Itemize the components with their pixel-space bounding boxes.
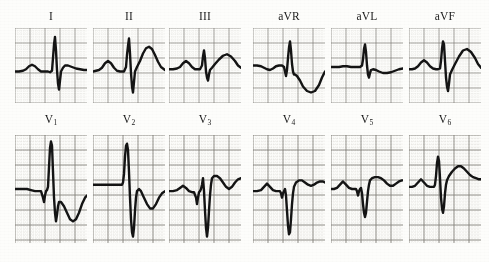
ecg-trace-v3 bbox=[169, 135, 241, 243]
lead-label-III: III bbox=[169, 10, 241, 22]
lead-label-V6: V6 bbox=[409, 113, 481, 129]
ecg-trace-iii bbox=[169, 28, 241, 103]
lead-label-V2-subscript: 2 bbox=[131, 118, 135, 127]
lead-label-V2: V2 bbox=[93, 113, 165, 129]
ecg-trace-v2 bbox=[93, 135, 165, 243]
ecg-trace-ii bbox=[93, 28, 165, 103]
lead-label-aVL: aVL bbox=[331, 10, 403, 22]
lead-label-I: I bbox=[15, 10, 87, 22]
ecg-trace-avf bbox=[409, 28, 481, 103]
ecg-trace-avl bbox=[331, 28, 403, 103]
lead-label-V3: V3 bbox=[169, 113, 241, 129]
ecg-trace-v6 bbox=[409, 135, 481, 243]
lead-label-V5: V5 bbox=[331, 113, 403, 129]
ecg-trace-avr bbox=[253, 28, 325, 103]
lead-label-V4: V4 bbox=[253, 113, 325, 129]
lead-label-II: II bbox=[93, 10, 165, 22]
ecg-trace-v1 bbox=[15, 135, 87, 243]
lead-label-aVR: aVR bbox=[253, 10, 325, 22]
lead-label-V1-subscript: 1 bbox=[53, 118, 57, 127]
ecg-trace-v5 bbox=[331, 135, 403, 243]
lead-label-V5-subscript: 5 bbox=[369, 118, 373, 127]
lead-label-V1: V1 bbox=[15, 113, 87, 129]
lead-label-aVF: aVF bbox=[409, 10, 481, 22]
lead-label-V4-subscript: 4 bbox=[291, 118, 295, 127]
ecg-sheet: I II III aVR aVL aVF V1 V2 V3 V4 V5 V6 bbox=[0, 0, 489, 262]
ecg-trace-i bbox=[15, 28, 87, 103]
ecg-trace-v4 bbox=[253, 135, 325, 243]
lead-label-V6-subscript: 6 bbox=[447, 118, 451, 127]
lead-label-V3-subscript: 3 bbox=[207, 118, 211, 127]
